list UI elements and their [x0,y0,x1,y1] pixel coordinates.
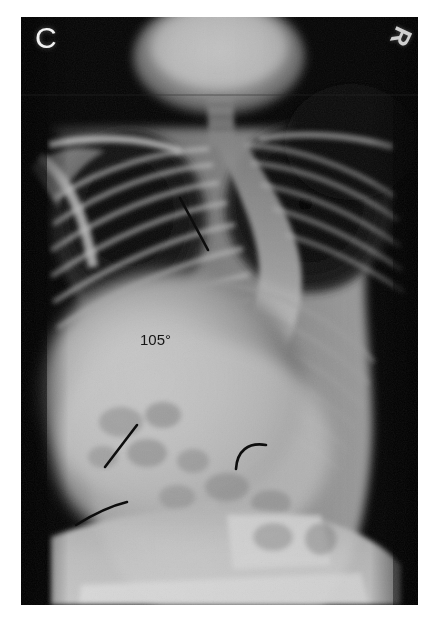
radiograph-canvas [21,17,418,605]
panel-label: C [35,23,57,53]
radiograph-image: C R [21,17,418,605]
figure-panel: C R 105° [0,0,437,628]
cobb-angle-label: 105° [140,332,171,347]
